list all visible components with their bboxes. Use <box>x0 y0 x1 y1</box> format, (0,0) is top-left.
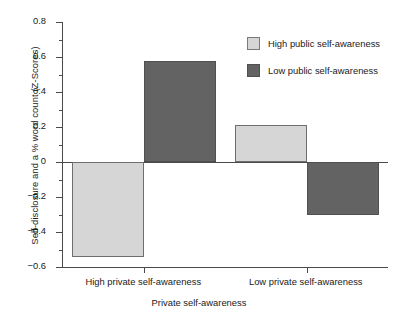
y-tick-minor <box>59 250 63 251</box>
y-tick-label: 0.2 <box>33 120 46 131</box>
x-tick <box>307 267 308 273</box>
bar <box>307 162 379 215</box>
y-tick-major: −0.2 <box>56 197 63 198</box>
y-tick-major: −0.6 <box>56 267 63 268</box>
y-tick-minor <box>59 40 63 41</box>
y-tick-major: 0 <box>56 162 63 163</box>
y-tick-minor <box>59 145 63 146</box>
y-tick-minor <box>59 215 63 216</box>
y-tick-major: −0.4 <box>56 232 63 233</box>
legend-item-low-public: Low public self-awareness <box>247 64 380 77</box>
y-tick-label: 0.8 <box>33 15 46 26</box>
y-tick-major: 0.4 <box>56 92 63 93</box>
y-tick-major: 0.8 <box>56 22 63 23</box>
x-tick <box>144 267 145 273</box>
y-tick-minor <box>59 75 63 76</box>
legend: High public self-awareness Low public se… <box>247 37 380 91</box>
y-tick-label: −0.4 <box>27 225 46 236</box>
legend-swatch-icon-low-public <box>247 64 260 77</box>
y-tick-label: 0.6 <box>33 50 46 61</box>
legend-item-high-public: High public self-awareness <box>247 37 380 50</box>
y-tick-label: −0.6 <box>27 260 46 271</box>
y-tick-label: 0 <box>41 155 46 166</box>
legend-label-high-public: High public self-awareness <box>268 38 380 49</box>
bar <box>235 125 307 162</box>
y-tick-label: −0.2 <box>27 190 46 201</box>
x-axis-title: Private self-awareness <box>0 297 398 308</box>
y-tick-minor <box>59 180 63 181</box>
x-group-label: Low private self-awareness <box>206 276 398 287</box>
y-tick-major: 0.2 <box>56 127 63 128</box>
y-tick-major: 0.6 <box>56 57 63 58</box>
y-tick-minor <box>59 110 63 111</box>
bar <box>72 162 144 257</box>
y-tick-label: 0.4 <box>33 85 46 96</box>
bar-chart-figure: Self-disclosure and a % word count (Z-Sc… <box>0 0 398 324</box>
legend-label-low-public: Low public self-awareness <box>268 65 378 76</box>
legend-swatch-icon-high-public <box>247 37 260 50</box>
bar <box>144 61 216 163</box>
